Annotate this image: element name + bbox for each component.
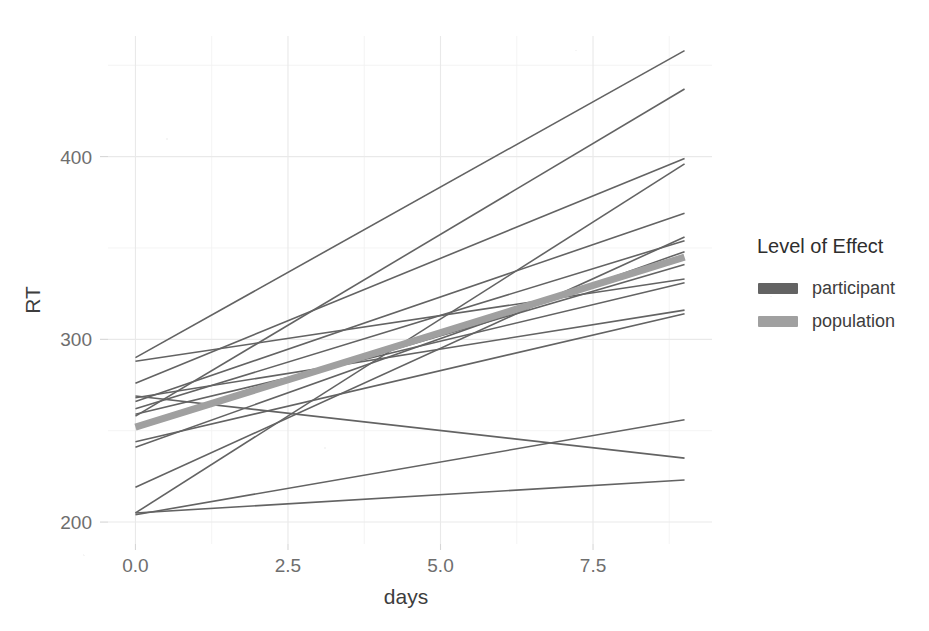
x-tick-label: 7.5	[580, 555, 606, 576]
plot-background	[0, 0, 929, 631]
x-tick-label: 5.0	[427, 555, 453, 576]
legend-title: Level of Effect	[757, 235, 884, 257]
legend-swatch-population[interactable]	[758, 316, 798, 327]
y-axis-title: RT	[21, 286, 44, 314]
legend-label-population[interactable]: population	[812, 311, 895, 331]
x-axis-title: days	[384, 585, 428, 608]
x-tick-label: 2.5	[275, 555, 301, 576]
x-tick-label: 0.0	[122, 555, 148, 576]
y-tick-label: 300	[60, 329, 92, 350]
y-tick-label: 200	[60, 512, 92, 533]
legend: Level of Effect participant population	[757, 235, 895, 331]
legend-swatch-participant[interactable]	[758, 283, 798, 294]
plot-canvas: 0.02.55.07.5 200300400 days RT Level of …	[0, 0, 929, 631]
chart-figure: 0.02.55.07.5 200300400 days RT Level of …	[0, 0, 929, 631]
legend-label-participant[interactable]: participant	[812, 278, 895, 298]
y-tick-label: 400	[60, 147, 92, 168]
